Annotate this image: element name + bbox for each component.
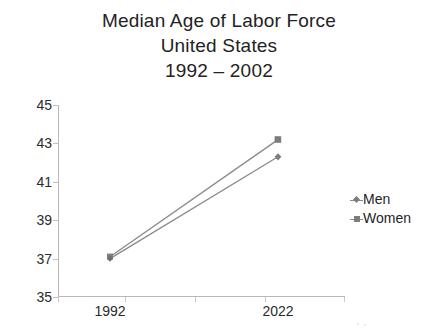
legend-label-women: Women [363, 211, 411, 226]
x-axis-tick-start [58, 297, 59, 302]
x-tick-label-1992: 1992 [94, 303, 125, 319]
legend-marker-square-icon [350, 213, 363, 225]
chart-legend: Men Women [350, 190, 436, 228]
legend-item-women: Women [350, 209, 436, 228]
legend-label-men: Men [363, 192, 390, 207]
y-tick-label-39: 39 [18, 213, 52, 227]
data-point-women-2022 [275, 136, 282, 143]
y-tick-label-43: 43 [18, 136, 52, 150]
chart-title: Median Age of Labor Force United States … [0, 8, 438, 83]
y-tick-label-35: 35 [18, 290, 52, 304]
x-axis-tick-1992-edge [125, 297, 126, 302]
x-axis-tick-end [344, 297, 345, 302]
chart-title-line-1: Median Age of Labor Force [0, 8, 438, 33]
y-axis-tick-labels: 45 43 41 39 37 35 [16, 105, 52, 297]
chart-title-line-2: United States [0, 33, 438, 58]
x-axis-tick-mid [195, 297, 196, 302]
plot-area [58, 105, 345, 297]
series-line-men [110, 157, 278, 259]
x-tick-label-2022: 2022 [262, 303, 293, 319]
data-point-men-2022 [275, 153, 282, 160]
legend-item-men: Men [350, 190, 436, 209]
scan-artifact [356, 322, 370, 327]
y-tick-label-45: 45 [18, 98, 52, 112]
series-plot [58, 105, 345, 297]
y-tick-label-37: 37 [18, 252, 52, 266]
series-line-women [110, 140, 278, 257]
legend-marker-diamond-icon [350, 194, 363, 206]
chart-title-line-3: 1992 – 2002 [0, 58, 438, 83]
y-tick-label-41: 41 [18, 175, 52, 189]
x-axis-tick-labels: 1992 2022 [58, 303, 345, 323]
x-axis-tick-2022-edge [265, 297, 266, 302]
